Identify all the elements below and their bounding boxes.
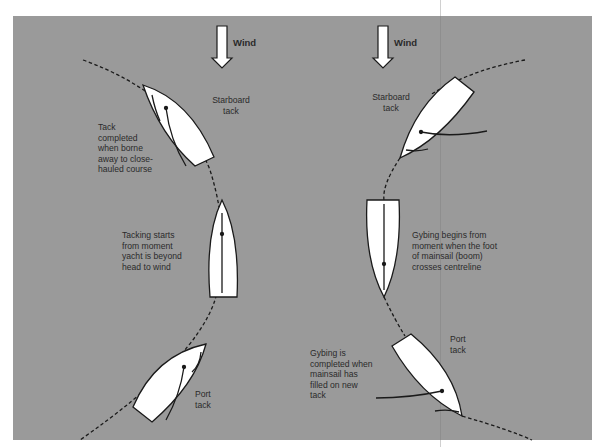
boat-icon-left-bottom [133,344,206,422]
label-gybing-begins: Gybing begins from moment when the foot … [412,230,522,272]
label-tacking-starts: Tacking starts from moment yacht is beyo… [122,230,204,272]
wind-arrow-icon-right [373,26,393,68]
label-starboard-tack-left: Starboard tack [196,95,266,116]
sailing-diagram [0,0,604,447]
boat-icon-right-middle [367,200,400,297]
label-port-tack-right: Port tack [450,334,490,355]
boat-icon-right-top [400,77,487,158]
boat-icon-left-middle [209,200,238,297]
label-gybing-completed: Gybing is completed when mainsail has fi… [310,348,390,401]
wind-label-left: Wind [233,37,256,48]
wind-arrow-icon-left [212,26,232,68]
label-tack-completed: Tack completed when borne away to close-… [98,122,178,175]
label-starboard-tack-right: Starboard tack [356,92,426,113]
label-port-tack-left: Port tack [195,389,235,410]
wind-label-right: Wind [394,37,417,48]
